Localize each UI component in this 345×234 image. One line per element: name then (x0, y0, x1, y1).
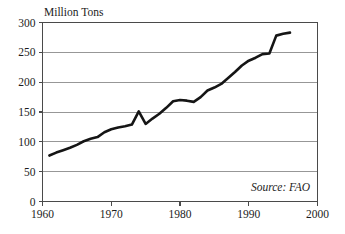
gridlines (43, 52, 318, 171)
source-annotation: Source: FAO (251, 181, 311, 193)
y-tick-label-100: 100 (18, 136, 36, 148)
x-tick-label-1960: 1960 (31, 208, 54, 220)
x-tick-label-2000: 2000 (306, 208, 329, 220)
y-tick-label-50: 50 (24, 166, 36, 178)
y-tick-label-200: 200 (18, 76, 36, 88)
line-chart: Million Tons 050100150200250300 19601970… (0, 0, 345, 234)
x-tick-label-1970: 1970 (100, 208, 123, 220)
chart-container: Million Tons 050100150200250300 19601970… (0, 0, 345, 234)
y-axis-title: Million Tons (44, 6, 104, 18)
data-series-line (49, 33, 290, 156)
y-axis-ticks: 050100150200250300 (18, 17, 42, 208)
y-tick-label-250: 250 (18, 46, 36, 58)
x-tick-label-1980: 1980 (169, 208, 192, 220)
y-tick-label-300: 300 (18, 17, 36, 29)
y-tick-label-0: 0 (30, 196, 36, 208)
x-tick-label-1990: 1990 (237, 208, 260, 220)
y-tick-label-150: 150 (18, 106, 36, 118)
x-axis-ticks: 19601970198019902000 (31, 202, 329, 220)
